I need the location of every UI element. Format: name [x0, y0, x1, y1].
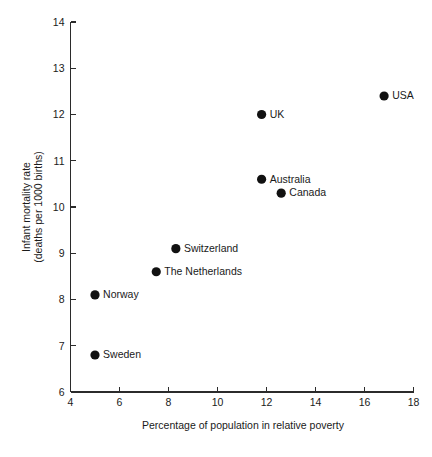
- data-point-marker[interactable]: [90, 350, 99, 359]
- y-axis-ticks: 67891011121314: [53, 16, 76, 398]
- y-tick-label: 7: [59, 340, 65, 352]
- data-point-marker[interactable]: [90, 290, 99, 299]
- y-tick-label: 12: [53, 108, 65, 120]
- y-tick-label: 10: [53, 201, 65, 213]
- y-tick-label: 14: [53, 16, 65, 28]
- x-tick-label: 12: [261, 396, 273, 408]
- x-tick-label: 6: [117, 396, 123, 408]
- y-tick-label: 8: [59, 293, 65, 305]
- data-point[interactable]: UK: [257, 108, 284, 120]
- data-point-label: UK: [270, 108, 285, 120]
- x-tick-label: 16: [359, 396, 371, 408]
- data-point-series: USAUKAustraliaCanadaSwitzerlandThe Nethe…: [90, 89, 413, 360]
- data-point-marker[interactable]: [277, 189, 286, 198]
- data-point[interactable]: Australia: [257, 173, 311, 185]
- scatter-plot-figure: 67891011121314 Infant mortality rate (de…: [0, 0, 432, 457]
- data-point-label: Switzerland: [184, 242, 238, 254]
- y-axis-title-line1: Infant mortality rate: [20, 162, 32, 252]
- x-axis-title: Percentage of population in relative pov…: [142, 419, 345, 431]
- x-axis-group: 4681012141618 Percentage of population i…: [68, 387, 420, 432]
- y-tick-label: 6: [59, 386, 65, 398]
- y-axis-group: 67891011121314 Infant mortality rate (de…: [20, 16, 76, 398]
- data-point-marker[interactable]: [171, 244, 180, 253]
- data-point[interactable]: Sweden: [90, 348, 141, 360]
- x-tick-label: 10: [212, 396, 224, 408]
- plot-canvas: 67891011121314 Infant mortality rate (de…: [0, 0, 432, 457]
- x-tick-label: 8: [166, 396, 172, 408]
- data-point-label: Canada: [289, 186, 326, 198]
- data-point-marker[interactable]: [152, 267, 161, 276]
- data-point[interactable]: The Netherlands: [152, 265, 242, 277]
- data-point-marker[interactable]: [380, 91, 389, 100]
- data-point-marker[interactable]: [257, 175, 266, 184]
- data-point-label: The Netherlands: [164, 265, 242, 277]
- x-tick-label: 18: [408, 396, 420, 408]
- data-point[interactable]: Switzerland: [171, 242, 238, 254]
- data-point-label: Sweden: [103, 348, 141, 360]
- y-axis-title-line2: (deaths per 1000 births): [32, 151, 44, 262]
- data-point[interactable]: USA: [380, 89, 414, 101]
- y-tick-label: 11: [54, 155, 65, 167]
- data-point-label: USA: [392, 89, 414, 101]
- x-tick-label: 4: [68, 396, 74, 408]
- data-point-label: Australia: [270, 173, 311, 185]
- data-point[interactable]: Norway: [90, 288, 139, 300]
- data-point-marker[interactable]: [257, 110, 266, 119]
- y-tick-label: 13: [53, 62, 65, 74]
- x-axis-ticks: 4681012141618: [68, 387, 420, 409]
- data-point[interactable]: Canada: [277, 186, 327, 198]
- y-tick-label: 9: [59, 247, 65, 259]
- x-tick-label: 14: [310, 396, 322, 408]
- data-point-label: Norway: [103, 288, 139, 300]
